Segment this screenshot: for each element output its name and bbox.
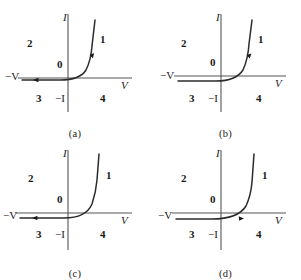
quadrant-label-1: 1 bbox=[106, 170, 112, 181]
quadrant-label-2: 2 bbox=[28, 173, 34, 184]
figure-grid: I −I V −V 0 1 2 3 4 (a) I −I V −V 0 1 2 … bbox=[0, 0, 301, 280]
axis-label-V: V bbox=[275, 78, 282, 89]
arrow-on-reverse-branch-icon bbox=[32, 216, 37, 220]
quadrant-label-3: 3 bbox=[189, 229, 195, 240]
panel-caption-b: (b) bbox=[150, 128, 301, 139]
origin-label: 0 bbox=[210, 57, 216, 68]
quadrant-label-3: 3 bbox=[189, 93, 195, 104]
quadrant-label-4: 4 bbox=[100, 93, 106, 104]
axis-label-neg-I: −I bbox=[208, 93, 218, 104]
quadrant-label-1: 1 bbox=[100, 34, 106, 45]
quadrant-label-3: 3 bbox=[36, 93, 42, 104]
axis-label-neg-V: −V bbox=[158, 210, 172, 221]
axis-label-V: V bbox=[275, 215, 282, 226]
axis-label-I: I bbox=[216, 12, 220, 23]
diode-curve bbox=[20, 154, 99, 218]
panel-d-plot bbox=[150, 140, 301, 280]
panel-d: I −I V −V 0 1 2 3 4 (d) bbox=[150, 140, 301, 280]
arrow-on-forward-branch-icon bbox=[239, 216, 244, 221]
quadrant-label-2: 2 bbox=[181, 38, 187, 49]
panel-c: I −I V −V 0 1 2 3 4 (c) bbox=[0, 140, 150, 280]
quadrant-label-4: 4 bbox=[256, 93, 262, 104]
diode-curve bbox=[176, 154, 254, 219]
panel-caption-c: (c) bbox=[0, 268, 150, 279]
axis-label-V: V bbox=[121, 215, 128, 226]
axis-label-I: I bbox=[63, 148, 67, 159]
axis-label-neg-I: −I bbox=[55, 93, 65, 104]
axis-label-neg-V: −V bbox=[3, 210, 17, 221]
quadrant-label-2: 2 bbox=[27, 38, 33, 49]
axis-label-neg-I: −I bbox=[55, 229, 65, 240]
panel-a-plot bbox=[0, 0, 150, 140]
panel-caption-d: (d) bbox=[150, 268, 301, 279]
origin-label: 0 bbox=[57, 194, 63, 205]
quadrant-label-3: 3 bbox=[36, 229, 42, 240]
quadrant-label-1: 1 bbox=[258, 34, 264, 45]
axis-label-neg-V: −V bbox=[160, 70, 174, 81]
diode-curve bbox=[178, 20, 252, 81]
diode-curve bbox=[22, 20, 95, 80]
quadrant-label-2: 2 bbox=[181, 173, 187, 184]
axis-label-neg-I: −I bbox=[208, 229, 218, 240]
axis-label-V: V bbox=[121, 80, 128, 91]
quadrant-label-1: 1 bbox=[262, 170, 268, 181]
axis-label-I: I bbox=[216, 148, 220, 159]
origin-label: 0 bbox=[57, 59, 63, 70]
panel-caption-a: (a) bbox=[0, 128, 150, 139]
axis-label-I: I bbox=[63, 12, 67, 23]
quadrant-label-4: 4 bbox=[256, 229, 262, 240]
origin-label: 0 bbox=[210, 194, 216, 205]
quadrant-label-4: 4 bbox=[100, 229, 106, 240]
panel-b: I −I V −V 0 1 2 3 4 (b) bbox=[150, 0, 301, 140]
panel-a: I −I V −V 0 1 2 3 4 (a) bbox=[0, 0, 150, 140]
axis-label-neg-V: −V bbox=[5, 71, 19, 82]
panel-c-plot bbox=[0, 140, 150, 280]
